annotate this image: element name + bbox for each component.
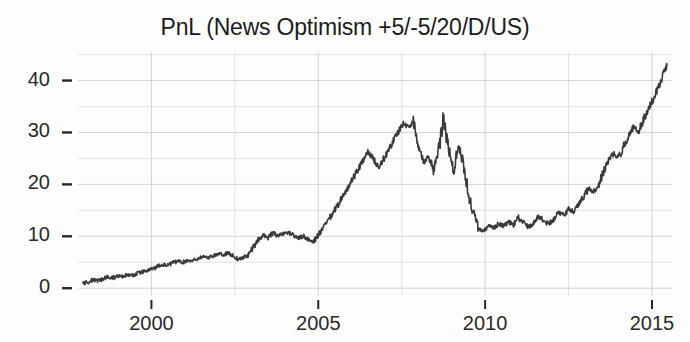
grid-major-lines [78,52,672,296]
x-tick-label: 2010 [445,312,525,335]
y-tick-label: 10 [4,223,50,246]
plot-area [0,0,690,342]
chart-figure: PnL (News Optimism +5/-5/20/D/US) 010203… [0,0,690,342]
x-tick-label: 2005 [278,312,358,335]
axis-tick-marks [62,81,652,309]
y-tick-label: 0 [4,275,50,298]
data-series-pnl [83,63,667,284]
y-tick-label: 20 [4,171,50,194]
y-tick-label: 30 [4,119,50,142]
y-tick-label: 40 [4,68,50,91]
grid-minor-lines [78,52,672,296]
x-tick-label: 2000 [111,312,191,335]
series-line-pnl [83,63,667,284]
x-tick-label: 2015 [612,312,690,335]
